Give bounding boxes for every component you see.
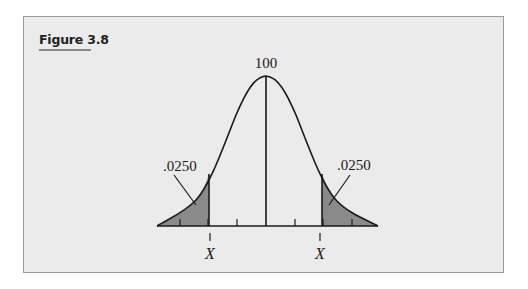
left-tail-shade — [157, 174, 209, 226]
right-tail-shade — [322, 174, 378, 226]
normal-distribution-diagram: 100 .0250 .0250 X X — [0, 0, 528, 289]
right-tail-label: .0250 — [337, 157, 371, 173]
right-tail-leader — [329, 175, 350, 205]
bell-curve — [157, 76, 378, 226]
left-tail-label: .0250 — [163, 158, 197, 174]
right-cutoff-label: X — [314, 245, 326, 262]
left-cutoff-label: X — [204, 245, 216, 262]
mean-label: 100 — [255, 55, 278, 71]
left-tail-leader — [174, 175, 196, 205]
